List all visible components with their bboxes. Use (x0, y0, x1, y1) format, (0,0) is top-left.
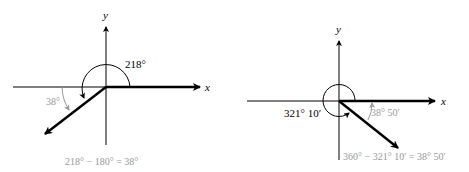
left-diagram: y x 218° 38° 218° − 180° = 38° (13, 9, 210, 167)
left-equation: 218° − 180° = 38° (65, 156, 138, 167)
left-reference-label: 38° (46, 96, 60, 107)
left-angle-label: 218° (125, 58, 146, 70)
left-x-label: x (204, 81, 210, 93)
right-x-label: x (440, 95, 446, 107)
right-equation: 360° − 321° 10′ = 38° 50′ (343, 151, 446, 162)
right-diagram: y x 321° 10′ 38° 50′ 360° − 321° 10′ = 3… (247, 23, 446, 162)
right-angle-label: 321° 10′ (284, 107, 321, 119)
left-terminal-vector (45, 87, 106, 134)
left-y-label: y (102, 9, 108, 21)
left-reference-arc (62, 87, 69, 110)
right-y-label: y (335, 23, 341, 35)
figure-canvas: y x 218° 38° 218° − 180° = 38° y x 321° … (0, 0, 469, 172)
right-reference-label: 38° 50′ (371, 107, 400, 118)
